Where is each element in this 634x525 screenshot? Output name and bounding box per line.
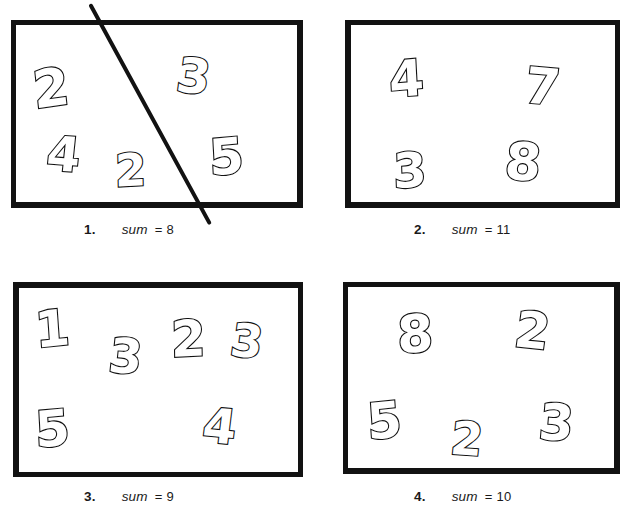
digit-8: 8 — [503, 135, 544, 189]
digit-4: 4 — [45, 129, 83, 179]
target-sum-2: 11 — [497, 222, 511, 237]
digit-3: 3 — [392, 145, 427, 195]
digit-2: 2 — [512, 304, 554, 357]
caption-2: 2.sum=11 — [414, 222, 510, 237]
digit-3: 3 — [174, 50, 214, 101]
digit-3: 3 — [107, 331, 145, 381]
digit-2: 2 — [449, 415, 486, 463]
digit-7: 7 — [522, 61, 563, 114]
puzzle-index-1: 1. — [84, 222, 96, 237]
digit-4: 4 — [388, 53, 425, 106]
digit-5: 5 — [365, 394, 403, 448]
puzzle-4: 82523 — [343, 282, 620, 474]
caption-3: 3.sum=9 — [84, 489, 174, 504]
digit-5: 5 — [208, 131, 245, 184]
sum-word-3: sum — [122, 489, 148, 504]
target-sum-1: 8 — [167, 222, 174, 237]
sum-word-1: sum — [122, 222, 148, 237]
equals-sign-1: = — [155, 222, 163, 237]
digit-3: 3 — [228, 317, 266, 366]
puzzle-1: 23425 — [11, 20, 303, 208]
equals-sign-4: = — [485, 489, 493, 504]
worksheet-page: 23425 1.sum=8 4738 2.sum=11 132354 3.sum… — [0, 0, 634, 525]
digit-4: 4 — [200, 401, 239, 452]
digit-2: 2 — [115, 147, 147, 194]
caption-4: 4.sum=10 — [414, 489, 511, 504]
digit-5: 5 — [34, 403, 71, 456]
equals-sign-3: = — [155, 489, 163, 504]
digit-2: 2 — [30, 60, 71, 117]
target-sum-3: 9 — [167, 489, 174, 504]
digit-2: 2 — [171, 313, 207, 365]
digit-1: 1 — [33, 302, 71, 356]
target-sum-4: 10 — [497, 489, 512, 504]
caption-1: 1.sum=8 — [84, 222, 174, 237]
puzzle-3: 132354 — [13, 282, 303, 477]
sum-word-4: sum — [452, 489, 478, 504]
digit-8: 8 — [396, 307, 434, 362]
number-box-2 — [345, 20, 620, 208]
puzzle-index-3: 3. — [84, 489, 96, 504]
puzzle-index-2: 2. — [414, 222, 426, 237]
puzzle-2: 4738 — [345, 20, 620, 208]
sum-word-2: sum — [452, 222, 478, 237]
puzzle-index-4: 4. — [414, 489, 426, 504]
digit-3: 3 — [537, 397, 576, 449]
equals-sign-2: = — [485, 222, 493, 237]
